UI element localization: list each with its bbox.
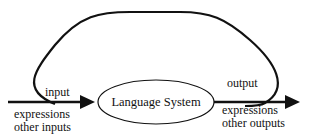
output-item-other-outputs: other outputs xyxy=(222,116,285,130)
language-system-label: Language System xyxy=(111,95,200,109)
input-item-other-inputs: other inputs xyxy=(14,120,71,134)
output-item-expressions: expressions xyxy=(222,103,278,117)
output-arrowhead-icon xyxy=(285,95,300,109)
output-label: output xyxy=(227,76,258,90)
input-label: input xyxy=(45,85,70,99)
language-system-diagram: Language System input expressions other … xyxy=(0,0,312,134)
input-arrowhead-icon xyxy=(80,95,95,109)
input-item-expressions: expressions xyxy=(14,107,70,121)
